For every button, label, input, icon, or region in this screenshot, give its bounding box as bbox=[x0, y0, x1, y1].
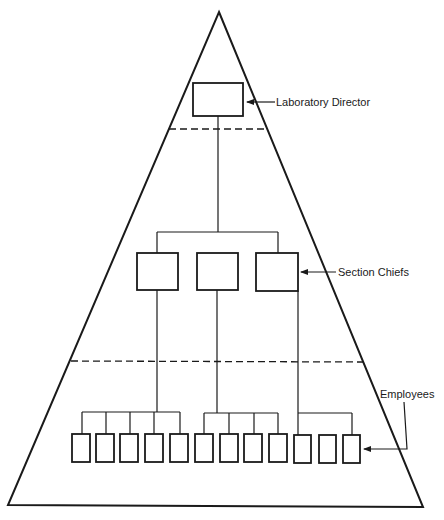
section-chiefs-label: Section Chiefs bbox=[338, 266, 409, 278]
employees-level: Employees bbox=[72, 388, 435, 463]
director-label: Laboratory Director bbox=[276, 96, 370, 108]
employee-box-6 bbox=[195, 434, 213, 462]
employee-box-2 bbox=[96, 434, 114, 462]
employee-box-10 bbox=[294, 435, 311, 463]
org-pyramid-diagram: Laboratory Director Section Chiefs bbox=[0, 0, 444, 520]
director-box bbox=[193, 83, 243, 116]
section-chief-box-2 bbox=[197, 253, 238, 290]
director-level: Laboratory Director bbox=[193, 83, 370, 232]
employee-box-9 bbox=[269, 434, 287, 462]
employee-box-7 bbox=[220, 434, 238, 462]
employees-label: Employees bbox=[380, 388, 435, 400]
employee-box-5 bbox=[170, 434, 188, 462]
employees-label-arrow bbox=[364, 402, 407, 449]
section-chief-box-3 bbox=[256, 253, 298, 291]
employee-box-8 bbox=[244, 434, 262, 462]
employee-box-1 bbox=[72, 434, 90, 462]
section-chief-box-1 bbox=[137, 253, 178, 290]
employee-box-4 bbox=[145, 434, 163, 462]
employee-box-3 bbox=[120, 434, 138, 462]
employee-box-12 bbox=[343, 435, 360, 463]
section-chiefs-level: Section Chiefs bbox=[137, 232, 409, 413]
employee-box-11 bbox=[319, 435, 336, 463]
